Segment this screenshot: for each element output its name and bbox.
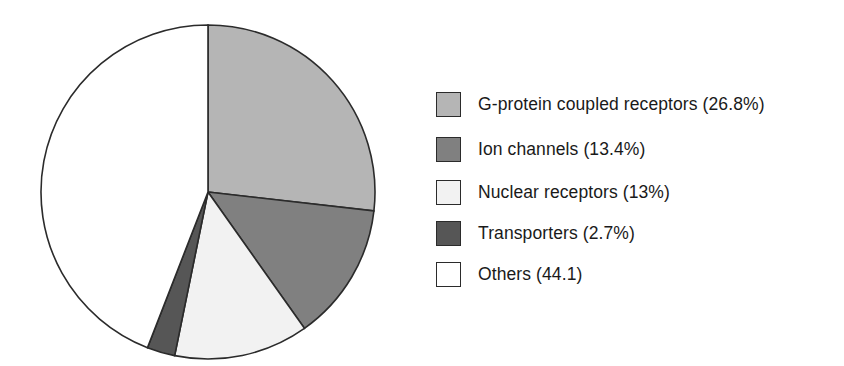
legend-swatch-others xyxy=(436,262,461,287)
pie-slice-g-protein-coupled-receptors xyxy=(208,25,375,211)
pie-chart-svg xyxy=(30,14,390,364)
legend: G-protein coupled receptors (26.8%) Ion … xyxy=(436,82,836,295)
legend-item-ion-channels: Ion channels (13.4%) xyxy=(436,127,836,172)
legend-item-g-protein-coupled-receptors: G-protein coupled receptors (26.8%) xyxy=(436,82,836,127)
legend-label-nuclear-receptors: Nuclear receptors (13%) xyxy=(478,184,670,202)
legend-label-ion-channels: Ion channels (13.4%) xyxy=(478,141,645,159)
legend-label-g-protein-coupled-receptors: G-protein coupled receptors (26.8%) xyxy=(478,96,765,114)
pie-chart-figure: G-protein coupled receptors (26.8%) Ion … xyxy=(0,0,844,366)
legend-swatch-nuclear-receptors xyxy=(436,180,461,205)
legend-swatch-transporters xyxy=(436,221,461,246)
legend-item-transporters: Transporters (2.7%) xyxy=(436,213,836,254)
legend-swatch-g-protein-coupled-receptors xyxy=(436,92,461,117)
pie-chart-area xyxy=(30,14,390,364)
legend-item-others: Others (44.1) xyxy=(436,254,836,295)
pie-slices xyxy=(41,25,375,359)
legend-item-nuclear-receptors: Nuclear receptors (13%) xyxy=(436,172,836,213)
legend-label-transporters: Transporters (2.7%) xyxy=(478,225,635,243)
legend-label-others: Others (44.1) xyxy=(478,266,582,284)
legend-swatch-ion-channels xyxy=(436,137,461,162)
